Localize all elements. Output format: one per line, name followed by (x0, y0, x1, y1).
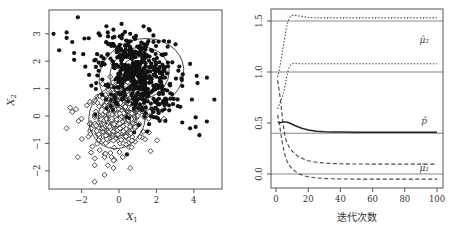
x-tick-label: 60 (367, 194, 378, 204)
y-tick-label: 3 (32, 31, 42, 36)
dot-point (194, 125, 198, 129)
dot-point (140, 106, 144, 110)
dot-point (113, 96, 117, 100)
diamond-point (92, 163, 97, 168)
dot-point (116, 45, 120, 49)
x-tick-label: 0 (273, 194, 278, 204)
dot-point (125, 152, 129, 156)
dot-point (123, 30, 127, 34)
dot-point (97, 69, 101, 73)
dot-point (157, 97, 161, 101)
dot-point (127, 55, 131, 59)
dot-point (65, 36, 69, 40)
dot-point (132, 130, 136, 134)
dot-point (104, 98, 108, 102)
dot-point (111, 108, 115, 112)
dot-point (151, 40, 155, 44)
scatter-panel: −2024 −2−10123 X1 X2 (5, 10, 222, 224)
dot-point (142, 67, 146, 71)
dot-point (152, 57, 156, 61)
dot-point (149, 106, 153, 110)
dot-point (121, 67, 125, 71)
dot-point (108, 57, 112, 61)
dot-point (72, 58, 76, 62)
dot-point (144, 111, 148, 115)
dot-point (173, 42, 177, 46)
dot-point (154, 83, 158, 87)
dot-point (141, 24, 145, 28)
dot-point (167, 108, 171, 112)
diamond-point (105, 163, 110, 168)
scatter-points (51, 15, 216, 184)
dot-point (83, 65, 87, 69)
y-tick-label: 1 (32, 86, 42, 91)
dot-point (181, 72, 185, 76)
dot-point (194, 115, 198, 119)
figure: −2024 −2−10123 X1 X2 020406080100 0.00.5… (0, 0, 451, 235)
dot-point (143, 98, 147, 102)
dot-point (140, 58, 144, 62)
dot-point (119, 22, 123, 26)
diamond-point (92, 156, 97, 161)
dot-point (142, 51, 146, 55)
dot-point (149, 62, 153, 66)
diamond-point (92, 179, 97, 184)
dot-point (116, 72, 120, 76)
dot-point (171, 102, 175, 106)
dot-point (160, 76, 164, 80)
dot-point (149, 80, 153, 84)
x-tick-label: 20 (303, 194, 314, 204)
dot-point (113, 100, 117, 104)
line-x-axis-title: 迭代次数 (337, 211, 377, 223)
dot-point (160, 89, 164, 93)
dot-point (100, 93, 104, 97)
dot-point (132, 63, 136, 67)
y-tick-label: −2 (32, 165, 42, 178)
dot-point (94, 65, 98, 69)
dot-point (89, 84, 93, 88)
dot-point (103, 62, 107, 66)
dot-point (205, 76, 209, 80)
dot-point (161, 67, 165, 71)
dot-point (106, 52, 110, 56)
y-tick-label: 1.5 (254, 14, 264, 28)
dot-point (190, 97, 194, 101)
dot-point (180, 120, 184, 124)
dot-point (162, 39, 166, 43)
dot-point (114, 77, 118, 81)
dot-point (132, 35, 136, 39)
dot-point (147, 91, 151, 95)
dot-point (94, 58, 98, 62)
diamond-point (75, 155, 80, 160)
diamond-point (120, 155, 125, 160)
dot-point (154, 44, 158, 48)
y-tick-label: 0.5 (254, 116, 264, 130)
dot-point (116, 86, 120, 90)
dot-point (119, 62, 123, 66)
line-y-axis: 0.00.51.01.5 (254, 14, 271, 181)
x-tick-label: 40 (335, 194, 346, 204)
curve-labels: μ̂₂p̂μ̂₁ (419, 35, 429, 173)
dot-point (57, 48, 61, 52)
dot-point (156, 116, 160, 120)
dot-point (82, 36, 86, 40)
dot-point (137, 76, 141, 80)
dot-point (161, 99, 165, 103)
dot-point (153, 72, 157, 76)
dot-point (131, 77, 135, 81)
dot-point (95, 73, 99, 77)
dot-point (65, 30, 69, 34)
dot-point (144, 106, 148, 110)
dot-point (95, 52, 99, 56)
dot-point (126, 99, 130, 103)
dot-point (168, 83, 172, 87)
dot-point (125, 115, 129, 119)
dot-point (170, 60, 174, 64)
dot-point (81, 52, 85, 56)
dot-point (160, 109, 164, 113)
dot-point (188, 62, 192, 66)
x-tick-label: 0 (116, 195, 121, 205)
dot-point (115, 55, 119, 59)
dot-point (130, 91, 134, 95)
diamond-point (89, 150, 94, 155)
